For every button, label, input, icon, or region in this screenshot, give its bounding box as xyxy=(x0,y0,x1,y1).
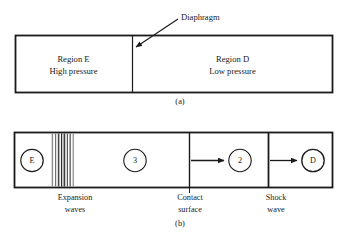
contact-surface-line1: Contact xyxy=(152,192,228,204)
contact-surface-line2: surface xyxy=(152,204,228,216)
node-label-D: D xyxy=(303,156,323,165)
region-d-line2: Low pressure xyxy=(133,65,332,77)
shock-wave-label: Shock wave xyxy=(238,192,314,215)
expansion-waves-line1: Expansion xyxy=(28,192,122,204)
panel-b-caption: (b) xyxy=(150,219,210,228)
panel-a-caption: (a) xyxy=(150,97,210,106)
shock-wave-line1: Shock xyxy=(238,192,314,204)
region-d-line1: Region D xyxy=(133,53,332,65)
node-label-3: 3 xyxy=(125,156,145,165)
panel-b-group xyxy=(15,133,333,194)
contact-surface-label: Contact surface xyxy=(152,192,228,215)
diaphragm-annotation-label: Diaphragm xyxy=(181,12,220,22)
expansion-waves-line2: waves xyxy=(28,204,122,216)
region-e-line1: Region E xyxy=(15,53,132,65)
region-e-line2: High pressure xyxy=(15,65,132,77)
shock-wave-line2: wave xyxy=(238,204,314,216)
region-d-label: Region D Low pressure xyxy=(133,53,332,77)
shock-tube-figure: Region E High pressure Region D Low pres… xyxy=(0,0,351,241)
node-label-E: E xyxy=(22,156,42,165)
region-e-label: Region E High pressure xyxy=(15,53,132,77)
expansion-waves-label: Expansion waves xyxy=(28,192,122,215)
node-label-2: 2 xyxy=(230,156,250,165)
